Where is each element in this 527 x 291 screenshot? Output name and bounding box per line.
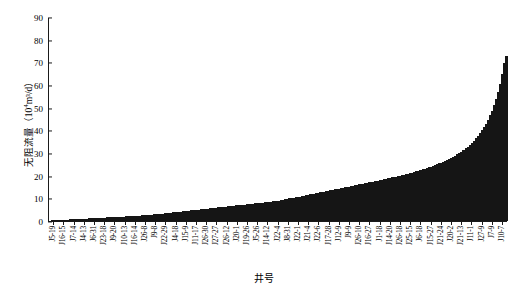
x-axis-tick-mark — [359, 222, 360, 225]
y-axis-tick-mark — [48, 85, 52, 86]
y-axis-title-tail: m³/d） — [24, 77, 34, 105]
y-axis-tick-mark — [48, 40, 52, 41]
x-axis-tick: J26-12 — [221, 222, 231, 272]
x-axis-tick-mark — [441, 222, 442, 225]
x-axis-tick-label: J11-1 — [468, 226, 475, 241]
x-axis-tick: J9-20 — [109, 222, 119, 272]
x-axis-tick-mark — [206, 222, 207, 225]
x-axis-tick-mark — [308, 222, 309, 225]
y-axis-tick-mark — [48, 153, 52, 154]
x-axis-tick-mark — [267, 222, 268, 225]
x-axis-tick-mark — [461, 222, 462, 225]
x-axis-tick-mark — [94, 222, 95, 225]
x-axis-tick-label: J27-9 — [478, 226, 485, 241]
x-axis-tick-mark — [53, 222, 54, 225]
x-axis-tick-label: J26-18 — [396, 226, 403, 245]
x-axis-tick: J16-14 — [130, 222, 140, 272]
x-axis-tick-mark — [155, 222, 156, 225]
y-axis-tick-label: 20 — [34, 172, 43, 181]
x-axis-tick-mark — [278, 222, 279, 225]
x-axis-tick: J1-18 — [375, 222, 385, 272]
x-axis-tick-label: J7-14 — [70, 226, 77, 241]
x-axis-tick: J8-31 — [283, 222, 293, 272]
x-axis-tick-label: J26-10 — [355, 226, 362, 245]
x-axis-tick-label: J16-27 — [366, 226, 373, 245]
x-axis-tick-mark — [237, 222, 238, 225]
x-axis-tick-label: J15-9 — [182, 226, 189, 241]
x-axis-tick: J21-13 — [456, 222, 466, 272]
x-axis-tick-mark — [339, 222, 340, 225]
y-axis-title: 无阻流量（104m³/d） — [21, 42, 35, 202]
x-axis-tick-label: J8-31 — [284, 226, 291, 241]
x-axis-tick: J22-1 — [293, 222, 303, 272]
bar-series — [49, 18, 507, 221]
x-axis-tick: J5-19 — [48, 222, 58, 272]
x-axis-tick: J26-8 — [140, 222, 150, 272]
x-axis-tick: J11-17 — [191, 222, 201, 272]
x-axis-tick-label: J21-13 — [458, 226, 465, 245]
x-axis-tick: J20-2 — [446, 222, 456, 272]
x-axis-tick-mark — [165, 222, 166, 225]
y-axis-tick-label: 60 — [34, 82, 43, 91]
x-axis-tick-label: J6-31 — [90, 226, 97, 241]
x-axis-tick-mark — [298, 222, 299, 225]
x-axis-tick-mark — [400, 222, 401, 225]
y-axis-tick-mark — [48, 131, 52, 132]
plot-area — [48, 18, 507, 222]
x-axis-tick: J27-9 — [477, 222, 487, 272]
x-axis-tick-mark — [227, 222, 228, 225]
x-axis-tick: J23-18 — [99, 222, 109, 272]
x-axis-tick: J4-13 — [79, 222, 89, 272]
x-axis-tick-label: J27-27 — [213, 226, 220, 245]
x-axis-tick-mark — [410, 222, 411, 225]
x-axis-title: 井号 — [0, 270, 527, 285]
x-axis-tick-label: J12-9 — [335, 226, 342, 241]
x-axis-ticks: J5-19J16-15J7-14J4-13J6-31J23-18J9-20J10… — [48, 222, 507, 272]
x-axis-tick-mark — [186, 222, 187, 225]
x-axis-tick-mark — [104, 222, 105, 225]
x-axis-tick: J4-18 — [170, 222, 180, 272]
y-axis-tick-label: 30 — [34, 150, 43, 159]
x-axis-tick: J15-27 — [426, 222, 436, 272]
x-axis-tick-label: J4-18 — [172, 226, 179, 241]
x-axis-tick-mark — [63, 222, 64, 225]
x-axis-tick: J6-31 — [89, 222, 99, 272]
x-axis-tick: J22-6 — [313, 222, 323, 272]
x-axis-tick: J7-14 — [68, 222, 78, 272]
x-axis-tick-label: J21-24 — [437, 226, 444, 245]
x-axis-tick-label: J22-29 — [162, 226, 169, 245]
x-axis-tick-mark — [492, 222, 493, 225]
y-axis-tick-mark — [48, 63, 52, 64]
x-axis-tick-mark — [451, 222, 452, 225]
x-axis-tick: J21-4 — [303, 222, 313, 272]
x-axis-tick-label: J9-20 — [111, 226, 118, 241]
x-axis-tick-label: J4-13 — [80, 226, 87, 241]
x-axis-tick-label: J6-18 — [417, 226, 424, 241]
x-axis-tick-mark — [176, 222, 177, 225]
x-axis-tick-label: J15-27 — [427, 226, 434, 245]
x-axis-tick-label: J5-26 — [253, 226, 260, 241]
x-axis-tick-label: J19-26 — [243, 226, 250, 245]
x-axis-tick: J11-1 — [466, 222, 476, 272]
x-axis-tick-label: J26-30 — [202, 226, 209, 245]
x-axis-tick-label: J5-19 — [49, 226, 56, 241]
x-axis-tick-label: J9-9 — [345, 226, 352, 238]
x-axis-tick-label: J14-20 — [386, 226, 393, 245]
x-axis-tick-mark — [145, 222, 146, 225]
x-axis-tick: J9-9 — [344, 222, 354, 272]
chart-figure: 无阻流量（104m³/d） 0102030405060708090 J5-19J… — [0, 0, 527, 291]
x-axis-tick-label: J22-6 — [315, 226, 322, 241]
x-axis-tick: J12-9 — [334, 222, 344, 272]
x-axis-tick: J7-9 — [487, 222, 497, 272]
x-axis-tick: J27-27 — [211, 222, 221, 272]
x-axis-tick-mark — [125, 222, 126, 225]
x-axis-tick-mark — [390, 222, 391, 225]
x-axis-tick: J14-20 — [385, 222, 395, 272]
x-axis-tick: J16-27 — [364, 222, 374, 272]
x-axis-tick-label: J22-1 — [294, 226, 301, 241]
x-axis-tick-mark — [84, 222, 85, 225]
x-axis-tick: J22-29 — [160, 222, 170, 272]
x-axis-tick: J26-30 — [201, 222, 211, 272]
x-axis-tick-label: J22-4 — [274, 226, 281, 241]
x-axis-tick-label: J9-8 — [151, 226, 158, 238]
